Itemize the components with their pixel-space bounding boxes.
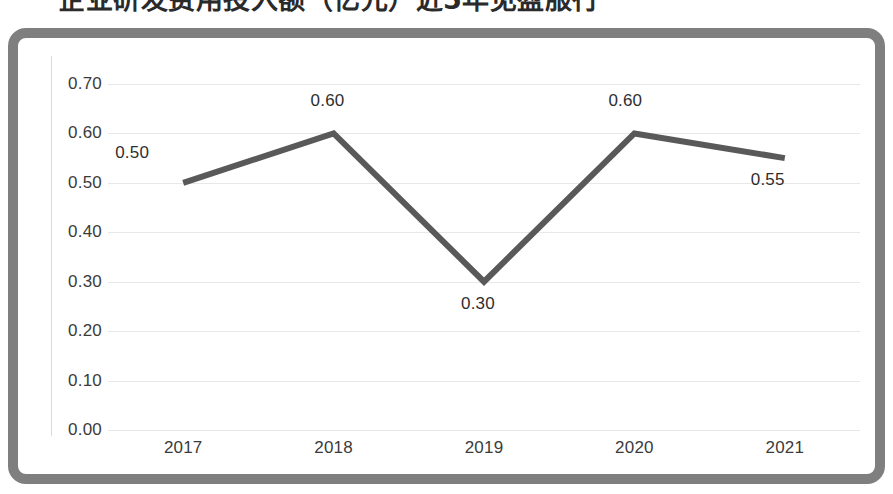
chart-frame: 0.700.600.500.400.300.200.100.00 2017201… <box>8 28 885 484</box>
data-label: 0.55 <box>751 170 785 190</box>
data-label: 0.30 <box>461 294 495 314</box>
line-series <box>18 38 875 474</box>
chart-plot-area: 0.700.600.500.400.300.200.100.00 2017201… <box>18 38 875 474</box>
data-label: 0.60 <box>311 91 345 111</box>
page-title-strip: 企业研发费用投入额（亿元）近5年见盈服行 <box>0 0 893 22</box>
data-label: 0.60 <box>608 91 642 111</box>
data-label: 0.50 <box>115 143 149 163</box>
series-polyline <box>183 133 785 281</box>
page-title: 企业研发费用投入额（亿元）近5年见盈服行 <box>58 0 600 17</box>
